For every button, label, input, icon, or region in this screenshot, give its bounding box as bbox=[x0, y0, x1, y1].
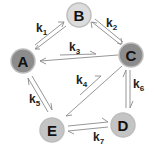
node-d-label: D bbox=[118, 117, 129, 134]
node-e: E bbox=[40, 118, 64, 142]
reaction-network-diagram: k1 k2 k3 k4 k5 k6 k7 A B C D E bbox=[0, 0, 154, 152]
label-k4: k4 bbox=[76, 73, 88, 89]
node-b: B bbox=[67, 3, 91, 27]
node-a: A bbox=[11, 49, 35, 73]
label-k2: k2 bbox=[106, 16, 118, 32]
label-k5: k5 bbox=[29, 92, 41, 108]
node-b-label: B bbox=[74, 7, 85, 24]
label-k1: k1 bbox=[36, 21, 48, 37]
label-k7: k7 bbox=[93, 130, 105, 146]
node-d: D bbox=[111, 113, 135, 137]
edge-k7 bbox=[68, 118, 108, 134]
label-k6: k6 bbox=[133, 77, 145, 93]
edge-k6 bbox=[123, 70, 133, 108]
node-c: C bbox=[119, 43, 143, 67]
label-k3: k3 bbox=[69, 40, 81, 56]
edge-k4 bbox=[66, 66, 122, 116]
node-a-label: A bbox=[18, 53, 29, 70]
node-c-label: C bbox=[126, 47, 137, 64]
node-e-label: E bbox=[47, 122, 57, 139]
